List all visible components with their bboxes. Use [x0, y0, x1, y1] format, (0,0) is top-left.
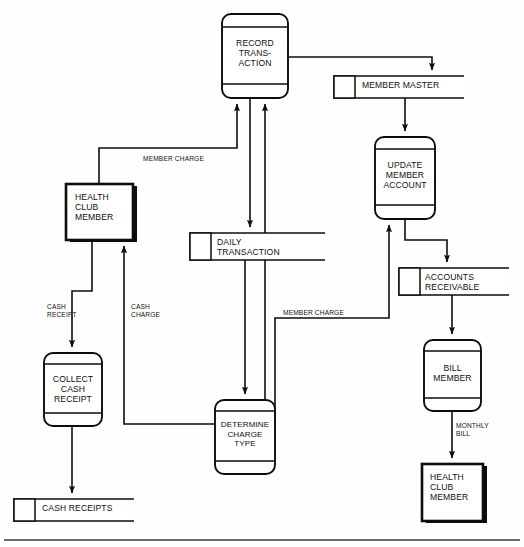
- external-entity-health-club-member-top[interactable]: [66, 184, 137, 242]
- process-collect-cash-receipt[interactable]: [44, 353, 102, 426]
- data-store-daily-transaction[interactable]: [190, 233, 325, 260]
- dfd-graphics-layer: [0, 0, 524, 547]
- data-store-accounts-receivable[interactable]: [399, 268, 509, 295]
- data-store-cash-receipts[interactable]: [14, 499, 134, 521]
- process-determine-charge-type[interactable]: [215, 400, 275, 474]
- process-record-transaction[interactable]: [222, 14, 288, 98]
- external-entity-health-club-member-bottom[interactable]: [422, 464, 487, 523]
- flow-determine-to-member-cash-charge: [124, 246, 215, 424]
- process-bill-member[interactable]: [424, 340, 481, 411]
- flow-member-to-collect-cash: [72, 240, 92, 347]
- dfd-canvas: RECORD TRANS- ACTION UPDATE MEMBER ACCOU…: [0, 0, 524, 547]
- flow-member-charge-to-record: [99, 104, 237, 184]
- flow-update-to-accounts-receivable: [405, 219, 447, 262]
- process-update-member-account[interactable]: [375, 137, 435, 219]
- data-store-member-master[interactable]: [334, 76, 464, 98]
- flow-record-to-member-master: [288, 57, 432, 70]
